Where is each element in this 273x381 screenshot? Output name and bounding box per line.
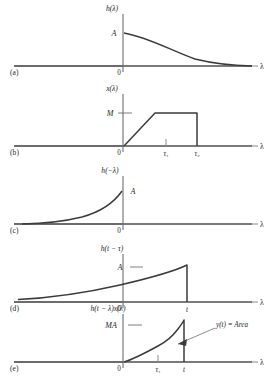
panel-d-curve — [18, 265, 187, 302]
panel-b-letter: (b) — [10, 148, 19, 157]
panel-e-tick-label-t: t — [183, 366, 186, 374]
panel-d-amplitude-label: A — [117, 263, 123, 272]
convolution-figure: h(λ) A 0 λ (a) x(λ) M 0 τ₁ τ₂ λ (b) — [0, 0, 273, 381]
panel-e: h(t − λ)x(λ) MA 0 τ₁ t y(t) = Area λ (e) — [0, 300, 273, 381]
panel-c-function-label: h(−λ) — [101, 166, 119, 175]
panel-b-plot: x(λ) M 0 τ₁ τ₂ λ — [0, 80, 273, 160]
panel-b: x(λ) M 0 τ₁ τ₂ λ (b) — [0, 80, 273, 160]
panel-e-letter: (e) — [10, 364, 19, 373]
panel-a-axis-label: λ — [260, 62, 264, 71]
panel-a-function-label: h(λ) — [106, 4, 119, 13]
panel-a-letter: (a) — [10, 68, 19, 77]
panel-c: h(−λ) A 0 λ (c) — [0, 160, 273, 238]
panel-b-origin-label: 0 — [117, 149, 121, 157]
panel-a: h(λ) A 0 λ (a) — [0, 0, 273, 80]
panel-b-axis-label: λ — [260, 142, 264, 151]
panel-e-function-label: h(t − λ)x(λ) — [91, 304, 126, 313]
panel-c-plot: h(−λ) A 0 λ — [0, 160, 273, 238]
panel-c-origin-label: 0 — [117, 227, 121, 235]
panel-a-plot: h(λ) A 0 λ — [0, 0, 273, 80]
panel-e-arrowhead-icon — [178, 339, 187, 346]
panel-a-amplitude-label: A — [111, 29, 117, 38]
panel-c-curve — [22, 191, 122, 224]
panel-e-axis-label: λ — [260, 358, 264, 367]
panel-b-tick-label-tau1: τ₁ — [163, 150, 169, 158]
panel-a-origin-label: 0 — [117, 69, 121, 77]
panel-e-plot: h(t − λ)x(λ) MA 0 τ₁ t y(t) = Area λ — [0, 300, 273, 381]
panel-e-amplitude-label: MA — [104, 321, 117, 330]
panel-e-origin-label: 0 — [117, 365, 121, 373]
panel-a-curve — [124, 33, 252, 66]
panel-e-tick-label-tau1: τ₁ — [155, 366, 161, 374]
panel-e-area-annotation: y(t) = Area — [215, 321, 248, 329]
panel-b-tick-label-tau2: τ₂ — [194, 150, 200, 158]
panel-e-curve — [124, 320, 184, 362]
panel-b-function-label: x(λ) — [105, 84, 118, 93]
panel-c-amplitude-label: A — [130, 187, 136, 196]
panel-b-amplitude-label: M — [106, 109, 115, 118]
panel-c-axis-label: λ — [260, 220, 264, 229]
panel-b-curve — [124, 113, 197, 146]
panel-d-function-label: h(t − τ) — [101, 244, 124, 253]
panel-c-letter: (c) — [10, 226, 19, 235]
